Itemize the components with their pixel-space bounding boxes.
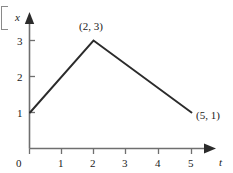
y-axis-ticks <box>30 41 36 113</box>
graph-figure: 3 2 1 0 1 2 3 4 5 x t (2, 3) (5, 1) <box>0 0 233 173</box>
y-axis-label: x <box>15 12 20 23</box>
x-tick-label-1: 1 <box>58 158 64 169</box>
y-tick-label-3: 3 <box>17 36 23 47</box>
y-tick-label-2: 2 <box>17 72 23 83</box>
x-axis-arrowhead <box>204 144 216 154</box>
y-axis-arrowhead <box>25 12 34 24</box>
x-tick-label-3: 3 <box>122 158 128 169</box>
x-tick-label-0: 0 <box>16 158 22 169</box>
plot-canvas <box>0 0 233 173</box>
y-tick-label-1: 1 <box>17 108 23 119</box>
data-series-line <box>30 41 192 113</box>
x-axis-label: t <box>219 157 222 168</box>
x-axis-ticks <box>30 149 192 155</box>
x-tick-label-5: 5 <box>188 158 194 169</box>
point-label-peak: (2, 3) <box>79 21 103 32</box>
point-label-end: (5, 1) <box>196 110 220 121</box>
x-tick-label-2: 2 <box>90 158 96 169</box>
x-tick-label-4: 4 <box>155 158 161 169</box>
